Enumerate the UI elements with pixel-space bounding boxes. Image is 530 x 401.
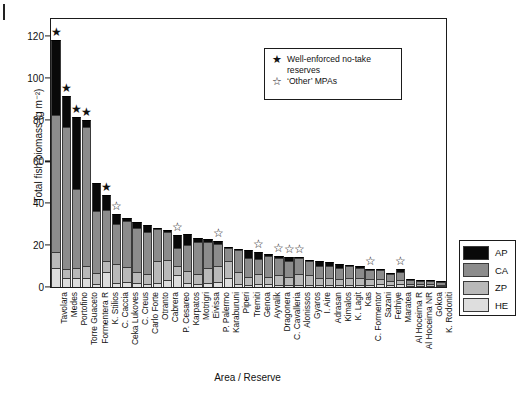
bar-segment-zp	[396, 280, 405, 284]
bar-segment-zp	[264, 277, 273, 284]
legend-row-ca[interactable]: CA	[463, 262, 512, 279]
bar[interactable]	[244, 250, 253, 287]
bar-segment-ca	[284, 261, 293, 277]
bar[interactable]	[122, 218, 131, 287]
bar[interactable]	[365, 269, 374, 287]
bar-segment-zp	[325, 278, 334, 285]
bar-segment-zp	[386, 281, 395, 285]
bar[interactable]	[254, 252, 263, 287]
bar[interactable]	[396, 269, 405, 287]
x-tick-label: Cabrera	[170, 292, 180, 322]
bar[interactable]	[386, 273, 395, 287]
bar-segment-ap	[345, 265, 354, 267]
figure-container: Total fish biomass (g m⁻²) 0204060801001…	[0, 0, 530, 401]
bar[interactable]	[264, 254, 273, 287]
bar-segment-zp	[72, 268, 81, 277]
bar-segment-zp	[92, 273, 101, 283]
bar-segment-ap	[426, 280, 435, 281]
legend-swatch	[463, 281, 489, 295]
legend-row-ap[interactable]: AP	[463, 244, 512, 261]
bar[interactable]	[224, 247, 233, 287]
bar-segment-zp	[203, 268, 212, 283]
marker-legend-label: Well-enforced no-take reserves	[287, 54, 395, 76]
bar-segment-ap	[396, 269, 405, 272]
bar-segment-zp	[436, 285, 445, 286]
marker-legend-label: ‘Other’ MPAs	[287, 76, 395, 87]
bar[interactable]	[132, 222, 141, 287]
bar-segment-ap	[153, 228, 162, 229]
bar-segment-ap	[203, 239, 212, 242]
bar[interactable]	[305, 260, 314, 287]
bar[interactable]	[436, 281, 445, 287]
bar-segment-ca	[315, 266, 324, 278]
bar-segment-he	[203, 283, 212, 287]
bar[interactable]	[92, 183, 101, 287]
bar[interactable]	[112, 214, 121, 287]
bar[interactable]	[153, 228, 162, 287]
bar-segment-he	[132, 283, 141, 287]
bar-segment-ap	[183, 234, 192, 246]
bar[interactable]	[315, 261, 324, 287]
bar[interactable]	[51, 40, 60, 287]
bar-segment-zp	[406, 284, 415, 286]
bar[interactable]	[274, 256, 283, 287]
bar[interactable]	[193, 238, 202, 287]
bar[interactable]	[173, 235, 182, 287]
bar[interactable]	[294, 257, 303, 287]
bar[interactable]	[345, 265, 354, 287]
x-tick-label: Carlo Forte	[150, 292, 160, 334]
bar[interactable]	[376, 269, 385, 287]
bar-segment-ap	[62, 96, 71, 126]
bar-segment-zp	[254, 274, 263, 283]
bar-segment-he	[355, 285, 364, 287]
bar[interactable]	[183, 234, 192, 287]
x-tick-label: Kas	[363, 292, 373, 306]
bar[interactable]	[213, 241, 222, 287]
bar[interactable]	[284, 257, 293, 287]
x-tick-label: Dragonera	[282, 292, 292, 332]
filled-star-marker-icon: ★	[61, 82, 72, 94]
bar[interactable]	[163, 230, 172, 287]
filled-star-marker-icon: ★	[71, 103, 82, 115]
x-tick-label: Medes	[69, 292, 79, 317]
bar[interactable]	[335, 264, 344, 287]
bar[interactable]	[355, 266, 364, 287]
bar-segment-zp	[355, 278, 364, 285]
bar-segment-ap	[244, 250, 253, 257]
x-tick-label: K. Stilios	[110, 292, 120, 325]
bar-segment-ca	[193, 242, 202, 274]
bar[interactable]	[82, 120, 91, 288]
legend-row-he[interactable]: HE	[463, 297, 512, 314]
legend-row-zp[interactable]: ZP	[463, 279, 512, 296]
bar-segment-zp	[234, 272, 243, 284]
x-tick-label: Motrigri	[201, 292, 211, 320]
bar[interactable]	[406, 279, 415, 287]
bar-segment-he	[406, 286, 415, 287]
bar[interactable]	[426, 280, 435, 287]
y-tick-label: 80	[0, 114, 44, 125]
bar-segment-he	[102, 272, 111, 287]
bar-segment-ap	[406, 279, 415, 280]
x-tick-label: Gokoa	[434, 292, 444, 317]
bar[interactable]	[102, 195, 111, 287]
y-tick-label: 20	[0, 240, 44, 251]
x-tick-label: Karaburuni	[231, 292, 241, 333]
bar-segment-ap	[416, 280, 425, 281]
bar[interactable]	[62, 96, 71, 287]
bar-segment-ca	[234, 250, 243, 272]
bar[interactable]	[416, 280, 425, 287]
bar-segment-zp	[274, 275, 283, 284]
bar-segment-he	[153, 283, 162, 287]
bar-segment-he	[92, 284, 101, 287]
legend-swatch	[463, 298, 489, 312]
bar-segment-ca	[122, 221, 131, 267]
x-tick-label: Karpatos	[191, 292, 201, 326]
bar-segment-zp	[82, 266, 91, 278]
bar-segment-ap	[51, 40, 60, 115]
bar-segment-ap	[376, 269, 385, 270]
bar[interactable]	[203, 239, 212, 287]
bar[interactable]	[234, 249, 243, 287]
bar[interactable]	[143, 225, 152, 287]
bar[interactable]	[72, 117, 81, 287]
bar[interactable]	[325, 262, 334, 287]
